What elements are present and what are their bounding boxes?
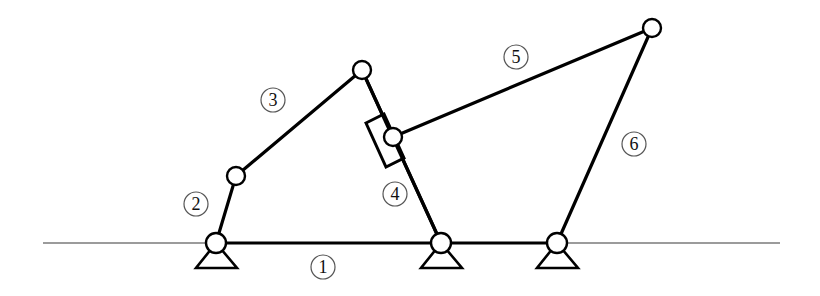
link-4-guide [362,70,441,243]
link-label-3: 3 [261,88,285,112]
link-label-1: 1 [311,255,335,279]
label-number: 3 [269,90,278,110]
label-number: 4 [391,184,400,204]
link-label-6: 6 [622,132,646,156]
label-number: 1 [319,257,328,277]
joint-F [547,233,567,253]
link-5 [393,28,652,137]
label-number: 2 [192,194,201,214]
joint-B [227,167,245,185]
label-number: 5 [512,47,521,67]
ground-supports-layer [196,243,578,268]
joint-E [431,233,451,253]
joint-G [643,19,661,37]
linkage-diagram: 123456 [0,0,820,296]
joint-D [384,128,402,146]
slider-layer [362,70,441,243]
link-3 [236,70,362,176]
link-label-2: 2 [184,192,208,216]
mechanism-svg: 123456 [0,0,820,296]
joint-A [206,233,226,253]
link-label-5: 5 [504,45,528,69]
links-layer [216,28,652,243]
label-number: 6 [630,134,639,154]
joint-C [353,61,371,79]
link-label-4: 4 [383,182,407,206]
